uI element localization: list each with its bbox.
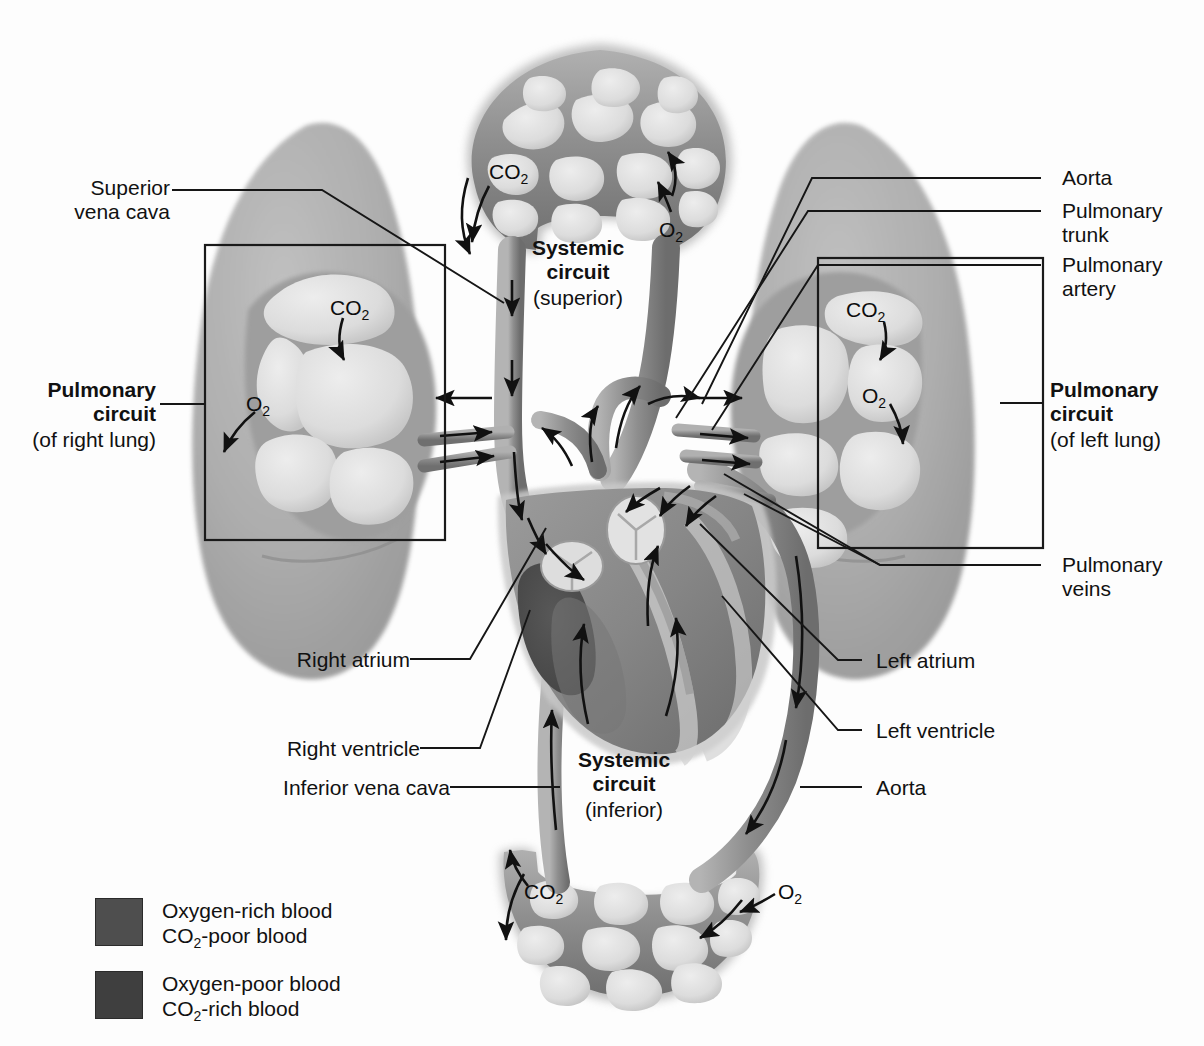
legend-swatch-oxygen-poor (95, 971, 143, 1019)
label-left-ventricle: Left ventricle (876, 719, 995, 743)
label-pulmonary-artery: Pulmonaryartery (1062, 253, 1162, 302)
label-aorta-top: Aorta (1062, 166, 1112, 190)
label-pulmonary-circuit-right-paren: (of right lung) (8, 428, 156, 452)
gas-label-co2-systemic-superior: CO2 (489, 160, 528, 187)
gas-label-o2-left-lung: O2 (862, 384, 886, 411)
label-pulmonary-circuit-left-paren: (of left lung) (1050, 428, 1202, 452)
gas-label-co2-systemic-inferior: CO2 (524, 880, 563, 907)
label-pulmonary-circuit-right: Pulmonarycircuit (8, 378, 156, 427)
label-superior-vena-cava: Superiorvena cava (18, 176, 170, 225)
legend-oxygen-poor-line2: CO2-rich blood (162, 997, 299, 1020)
label-aorta-bottom: Aorta (876, 776, 926, 800)
label-inferior-vena-cava: Inferior vena cava (240, 776, 450, 800)
legend-oxygen-poor-line1: Oxygen-poor blood (162, 972, 341, 995)
label-systemic-circuit-superior: Systemiccircuit (500, 236, 656, 285)
label-left-atrium: Left atrium (876, 649, 975, 673)
label-pulmonary-circuit-left: Pulmonarycircuit (1050, 378, 1202, 427)
label-pulmonary-veins: Pulmonaryveins (1062, 553, 1162, 602)
systemic-capillary-bed-superior (467, 44, 731, 254)
gas-label-o2-systemic-inferior: O2 (778, 880, 802, 907)
gas-label-o2-right-lung: O2 (246, 392, 270, 419)
circulation-diagram: Superiorvena cava Pulmonarycircuit (of r… (0, 0, 1204, 1046)
legend-oxygen-rich-line2: CO2-poor blood (162, 924, 308, 947)
anatomy-artwork (0, 0, 1204, 1046)
leader-right-ventricle (420, 610, 530, 748)
legend-item-oxygen-rich: Oxygen-rich bloodCO2-poor blood (95, 898, 341, 952)
label-systemic-circuit-inferior: Systemiccircuit (546, 748, 702, 797)
label-systemic-circuit-superior-paren: (superior) (500, 286, 656, 310)
label-pulmonary-trunk: Pulmonarytrunk (1062, 199, 1162, 248)
gas-label-o2-systemic-superior: O2 (659, 218, 683, 245)
legend-item-oxygen-poor: Oxygen-poor bloodCO2-rich blood (95, 971, 341, 1025)
blood-color-legend: Oxygen-rich bloodCO2-poor blood Oxygen-p… (95, 898, 341, 1044)
gas-label-co2-left-lung: CO2 (846, 298, 885, 325)
label-right-atrium: Right atrium (240, 648, 410, 672)
label-systemic-circuit-inferior-paren: (inferior) (546, 798, 702, 822)
legend-oxygen-rich-line1: Oxygen-rich blood (162, 899, 332, 922)
legend-swatch-oxygen-rich (95, 898, 143, 946)
gas-label-co2-right-lung: CO2 (330, 296, 369, 323)
label-right-ventricle: Right ventricle (250, 737, 420, 761)
